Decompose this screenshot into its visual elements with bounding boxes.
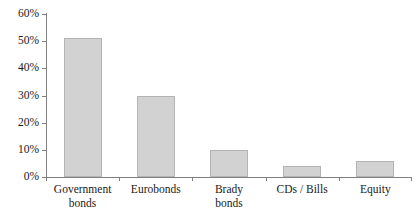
- y-tick-label-3: 30%: [18, 90, 39, 102]
- x-category-label-brady-bonds: Brady bonds: [192, 183, 265, 210]
- bar-equity: [356, 161, 394, 177]
- y-tick-label-5: 50%: [18, 35, 39, 47]
- bar-brady-bonds: [210, 150, 248, 177]
- plot-area: 0% 10% 20% 30% 40% 50%: [46, 14, 412, 177]
- x-tick-0: [46, 177, 47, 181]
- x-category-label-eurobonds: Eurobonds: [119, 183, 192, 197]
- bar-cds-bills: [283, 166, 321, 177]
- y-tick-label-1: 10%: [18, 144, 39, 156]
- x-tick-2: [192, 177, 193, 181]
- x-axis-line: [46, 177, 412, 178]
- x-tick-4: [339, 177, 340, 181]
- x-category-label-equity: Equity: [339, 183, 412, 197]
- bar-government-bonds: [64, 38, 102, 177]
- x-tick-3: [266, 177, 267, 181]
- y-tick-label-6: 60%: [18, 8, 39, 20]
- y-tick-label-4: 40%: [18, 63, 39, 75]
- bar-eurobonds: [137, 96, 175, 178]
- x-category-label-government-bonds: Government bonds: [46, 183, 119, 210]
- y-tick-label-0: 0%: [24, 171, 39, 183]
- bar-chart-figure: 0% 10% 20% 30% 40% 50%: [0, 0, 420, 217]
- x-category-label-cds-bills: CDs / Bills: [266, 183, 339, 197]
- x-tick-5: [411, 177, 412, 181]
- y-tick-label-2: 20%: [18, 117, 39, 129]
- x-tick-1: [119, 177, 120, 181]
